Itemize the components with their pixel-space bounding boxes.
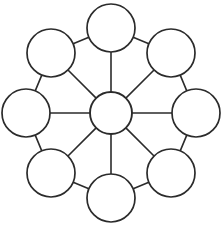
rim-right-to-bottom-right (180, 135, 187, 151)
rim-bottom-right-to-bottom (133, 182, 149, 189)
node-left[interactable] (2, 89, 50, 137)
node-top[interactable] (87, 4, 135, 52)
node-top-right[interactable] (147, 29, 195, 77)
wheel-diagram-canvas (0, 0, 223, 226)
rim-bottom-left-to-left (35, 135, 42, 151)
rim-bottom-to-bottom-left (73, 182, 89, 189)
rim-left-to-top-left (35, 75, 42, 91)
node-bottom-right[interactable] (147, 149, 195, 197)
node-bottom[interactable] (87, 174, 135, 222)
center-node[interactable] (90, 92, 132, 134)
spoke-center-to-bottom-right (126, 128, 154, 156)
rim-top-left-to-top (73, 37, 89, 44)
node-right[interactable] (172, 89, 220, 137)
spoke-center-to-top-left (68, 70, 96, 98)
node-bottom-left[interactable] (27, 149, 75, 197)
spoke-center-to-top-right (126, 70, 154, 98)
rim-top-to-top-right (133, 37, 149, 44)
rim-top-right-to-right (180, 75, 187, 91)
spoke-center-to-bottom-left (68, 128, 96, 156)
hub-node-group (90, 92, 132, 134)
node-top-left[interactable] (27, 29, 75, 77)
wheel-diagram-svg (0, 0, 223, 226)
